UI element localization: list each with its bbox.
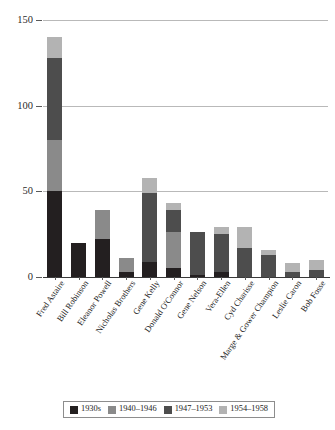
legend-swatch-icon xyxy=(70,406,78,414)
plot-area: 050100150 xyxy=(43,20,328,277)
bar-segment[interactable] xyxy=(166,203,181,210)
bar-segment[interactable] xyxy=(285,263,300,272)
bar-group[interactable] xyxy=(281,20,305,277)
bar-segment[interactable] xyxy=(309,270,324,277)
bar-group[interactable] xyxy=(304,20,328,277)
bar-segment[interactable] xyxy=(166,232,181,268)
bar-segment[interactable] xyxy=(95,210,110,239)
bar-stack[interactable] xyxy=(119,258,134,277)
bar-group[interactable] xyxy=(162,20,186,277)
legend-item[interactable]: 1940–1946 xyxy=(108,405,157,413)
y-axis-label: 0 xyxy=(28,272,33,283)
bar-segment[interactable] xyxy=(47,37,62,58)
bar-stack[interactable] xyxy=(190,232,205,277)
legend-label: 1954–1958 xyxy=(230,405,268,413)
bar-segment[interactable] xyxy=(237,248,252,277)
bar-segment[interactable] xyxy=(190,232,205,275)
legend-item[interactable]: 1954–1958 xyxy=(219,405,268,413)
chart-legend[interactable]: 1930s1940–19461947–19531954–1958 xyxy=(63,401,275,418)
bar-stack[interactable] xyxy=(309,260,324,277)
stacked-bar-chart: 050100150 Fred AstaireBill RobinsonElean… xyxy=(0,0,335,430)
bar-group[interactable] xyxy=(257,20,281,277)
bar-segment[interactable] xyxy=(47,140,62,191)
bar-series-layer xyxy=(43,20,328,277)
bar-segment[interactable] xyxy=(214,234,229,272)
bar-group[interactable] xyxy=(114,20,138,277)
legend-label: 1930s xyxy=(81,405,101,413)
bar-segment[interactable] xyxy=(119,258,134,272)
legend-item[interactable]: 1930s xyxy=(70,405,101,413)
bar-segment[interactable] xyxy=(214,227,229,234)
bar-segment[interactable] xyxy=(142,193,157,262)
bar-stack[interactable] xyxy=(214,227,229,277)
legend-swatch-icon xyxy=(219,406,227,414)
bar-stack[interactable] xyxy=(166,203,181,277)
y-tick-100 xyxy=(36,106,42,107)
bar-segment[interactable] xyxy=(166,268,181,277)
bar-segment[interactable] xyxy=(47,58,62,140)
legend-label: 1940–1946 xyxy=(119,405,157,413)
bar-segment[interactable] xyxy=(237,227,252,248)
y-axis-label: 50 xyxy=(23,186,34,197)
y-tick-0 xyxy=(36,277,42,278)
bar-stack[interactable] xyxy=(261,250,276,277)
y-tick-50 xyxy=(36,191,42,192)
y-axis-label: 100 xyxy=(17,100,33,111)
legend-swatch-icon xyxy=(164,406,172,414)
x-axis-label-layer: Fred AstaireBill RobinsonEleanor PowellN… xyxy=(43,279,328,374)
bar-stack[interactable] xyxy=(237,227,252,277)
bar-segment[interactable] xyxy=(309,260,324,270)
bar-group[interactable] xyxy=(233,20,257,277)
x-axis-category-label: Bob Fosse xyxy=(299,279,327,313)
bar-group[interactable] xyxy=(67,20,91,277)
legend-label: 1947–1953 xyxy=(175,405,213,413)
bar-group[interactable] xyxy=(186,20,210,277)
bar-stack[interactable] xyxy=(47,37,62,277)
bar-segment[interactable] xyxy=(142,262,157,277)
bar-stack[interactable] xyxy=(71,243,86,277)
bar-stack[interactable] xyxy=(95,210,110,277)
legend-swatch-icon xyxy=(108,406,116,414)
bar-stack[interactable] xyxy=(142,178,157,277)
y-axis-label: 150 xyxy=(17,15,33,26)
bar-group[interactable] xyxy=(138,20,162,277)
legend-item[interactable]: 1947–1953 xyxy=(164,405,213,413)
bar-segment[interactable] xyxy=(166,210,181,232)
bar-stack[interactable] xyxy=(285,263,300,277)
bar-segment[interactable] xyxy=(261,255,276,277)
bar-group[interactable] xyxy=(91,20,115,277)
bar-segment[interactable] xyxy=(71,243,86,277)
bar-segment[interactable] xyxy=(95,239,110,277)
bar-group[interactable] xyxy=(43,20,67,277)
bar-segment[interactable] xyxy=(142,178,157,193)
bar-segment[interactable] xyxy=(47,191,62,277)
y-tick-150 xyxy=(36,20,42,21)
bar-group[interactable] xyxy=(209,20,233,277)
